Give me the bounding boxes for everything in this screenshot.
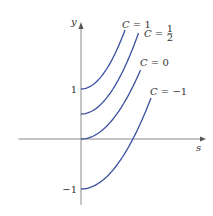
curve-series — [81, 33, 139, 114]
curve-label: C = 0 — [140, 57, 169, 68]
chart: ys1−1C = 1C = 12C = 0C = −1 — [0, 0, 213, 216]
x-axis-arrow-icon — [200, 137, 206, 142]
curve-series — [81, 70, 141, 139]
fraction-denominator: 2 — [167, 32, 173, 43]
curve-label-text: C = 0 — [140, 57, 169, 68]
y-axis-label: y — [70, 16, 77, 27]
x-axis-label: s — [196, 142, 201, 153]
y-tick-label: −1 — [62, 184, 77, 195]
curves — [81, 30, 151, 189]
y-tick-label: 1 — [71, 84, 77, 95]
curve-label-text: C = — [144, 28, 163, 39]
curve-label: C = −1 — [150, 86, 187, 97]
labels: ys1−1C = 1C = 12C = 0C = −1 — [62, 16, 201, 195]
axes — [19, 22, 207, 205]
y-axis-arrow-icon — [79, 22, 84, 29]
curve-label-text: C = −1 — [150, 86, 187, 97]
